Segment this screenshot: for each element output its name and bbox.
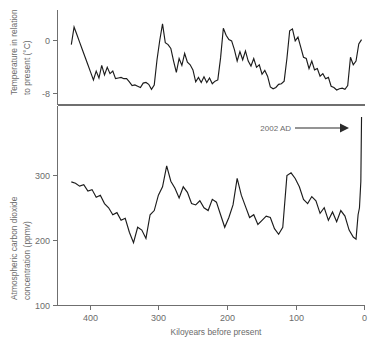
temperature-axis-title-line2: to present (°C) [22, 40, 32, 95]
temperature-series-line [71, 24, 361, 90]
co2-xtick-label-400: 400 [83, 313, 98, 323]
annotation-2002ad: 2002 AD [260, 124, 349, 134]
co2-y-ticks [53, 176, 58, 306]
annotation-label: 2002 AD [260, 124, 291, 133]
co2-x-ticks [91, 306, 365, 311]
co2-panel: 300 200 100 400 300 200 100 0 Kiloyears … [9, 106, 367, 337]
chart-figure: 0 -8 Temperature in relation to present … [0, 0, 374, 345]
temperature-ytick-label-0: 0 [45, 36, 50, 46]
co2-axis-title-line1: Atmospheric carbon dioxide [9, 196, 19, 300]
co2-xtick-label-200: 200 [220, 313, 235, 323]
vostok-ice-core-chart: 0 -8 Temperature in relation to present … [0, 0, 374, 345]
co2-axis-title-line2: concentration (ppmv) [22, 221, 32, 300]
right-arrow-head-icon [340, 124, 349, 133]
temperature-y-ticks [53, 41, 58, 94]
co2-xtick-label-300: 300 [151, 313, 166, 323]
temperature-ytick-label-minus8: -8 [42, 89, 50, 99]
co2-x-axis-title: Kiloyears before present [171, 327, 262, 337]
temperature-panel: 0 -8 Temperature in relation to present … [9, 9, 362, 104]
co2-xtick-label-100: 100 [289, 313, 304, 323]
co2-ytick-label-100: 100 [35, 301, 50, 311]
co2-ytick-label-300: 300 [35, 171, 50, 181]
co2-series-line [71, 117, 361, 243]
co2-xtick-label-0: 0 [362, 313, 367, 323]
co2-ytick-label-200: 200 [35, 236, 50, 246]
temperature-axis-title-line1: Temperature in relation [9, 9, 19, 95]
